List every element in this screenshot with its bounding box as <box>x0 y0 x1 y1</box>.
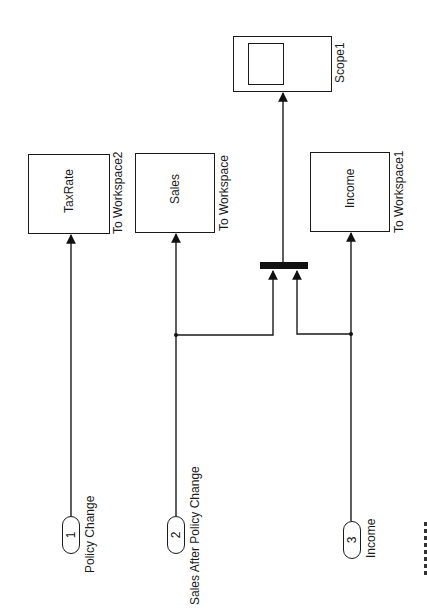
to-workspace2-block[interactable]: TaxRate <box>28 154 110 234</box>
inport-3-number: 3 <box>345 537 359 544</box>
to-workspace1-block[interactable]: Income <box>310 152 390 232</box>
wire-income-to-mux[interactable] <box>297 271 351 334</box>
to-workspace-block[interactable]: Sales <box>135 153 215 233</box>
scope-label: Scope1 <box>334 42 346 83</box>
income-variable-name: Income <box>344 169 356 208</box>
inport-2[interactable]: 2 <box>167 516 185 554</box>
inport-1[interactable]: 1 <box>62 516 80 554</box>
scope-block[interactable] <box>233 36 332 92</box>
branch-point-income <box>349 332 353 336</box>
simulink-diagram: Scope1 TaxRate To Workspace2 Sales To Wo… <box>0 0 427 616</box>
taxrate-variable-name: TaxRate <box>63 169 75 213</box>
to-workspace-label: To Workspace <box>218 155 230 231</box>
to-workspace2-label: To Workspace2 <box>112 152 124 234</box>
inport-3-label: Income <box>365 519 377 558</box>
inport-1-number: 1 <box>64 532 78 539</box>
inport-1-label: Policy Change <box>84 496 96 573</box>
mux-block[interactable] <box>260 262 308 269</box>
inport-3[interactable]: 3 <box>343 521 361 559</box>
branch-point-sales <box>174 333 178 337</box>
inport-2-number: 2 <box>169 532 183 539</box>
wire-sales-to-mux[interactable] <box>176 271 273 335</box>
inport-2-label: Sales After Policy Change <box>189 466 201 605</box>
sales-variable-name: Sales <box>169 174 181 204</box>
scope-screen-icon <box>248 43 284 85</box>
to-workspace1-label: To Workspace1 <box>393 151 405 233</box>
